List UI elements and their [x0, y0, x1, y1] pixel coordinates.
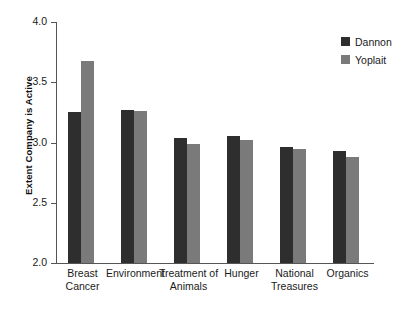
- bar-dannon: [121, 110, 134, 263]
- plot-area: 4.03.53.02.52.0 Breast CancerEnvironment…: [56, 22, 374, 263]
- chart-legend: DannonYoplait: [341, 34, 407, 70]
- legend-item: Dannon: [341, 34, 407, 49]
- bar-dannon: [68, 112, 81, 263]
- bar-dannon: [174, 138, 187, 263]
- y-axis-tick-label: 2.0: [32, 256, 47, 269]
- bar-dannon: [333, 151, 346, 263]
- legend-swatch-icon: [341, 37, 350, 46]
- y-axis-tick-label: 2.5: [32, 196, 47, 209]
- bar-yoplait: [293, 149, 306, 263]
- bar-yoplait: [187, 144, 200, 263]
- y-axis-line: [56, 22, 57, 263]
- bar-group: [280, 22, 306, 263]
- y-axis-tick: 3.0: [51, 143, 56, 144]
- bar-yoplait: [240, 140, 253, 263]
- legend-label: Yoplait: [355, 54, 386, 66]
- y-axis-tick-label: 3.5: [32, 75, 47, 88]
- y-axis-tick-label: 4.0: [32, 15, 47, 28]
- bar-yoplait: [81, 61, 94, 263]
- legend-swatch-icon: [341, 55, 350, 64]
- y-axis-tick: 4.0: [51, 22, 56, 23]
- x-axis-line: [56, 263, 374, 264]
- y-axis-tick: 3.5: [51, 82, 56, 83]
- legend-item: Yoplait: [341, 52, 407, 67]
- bar-chart: Extent Company is Active 4.03.53.02.52.0…: [0, 0, 407, 309]
- legend-label: Dannon: [355, 36, 392, 48]
- bar-group: [227, 22, 253, 263]
- y-axis-tick-label: 3.0: [32, 136, 47, 149]
- x-axis-label: Organics: [315, 267, 380, 280]
- bar-group: [68, 22, 94, 263]
- bar-dannon: [280, 147, 293, 263]
- bar-group: [121, 22, 147, 263]
- bar-yoplait: [346, 157, 359, 263]
- bar-group: [174, 22, 200, 263]
- y-axis-tick: 2.0: [51, 263, 56, 264]
- bar-dannon: [227, 136, 240, 263]
- bar-yoplait: [134, 111, 147, 263]
- y-axis-tick: 2.5: [51, 203, 56, 204]
